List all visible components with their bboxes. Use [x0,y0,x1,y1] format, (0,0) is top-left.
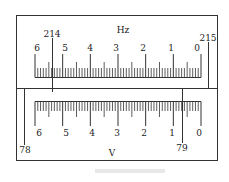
marker-label-78: 78 [19,146,30,155]
top-scale-ticks [35,54,201,78]
top-tick-label: 4 [87,44,93,53]
unit-label-hz: Hz [117,26,130,35]
top-tick-label: 5 [62,44,68,53]
top-tick-label: 3 [113,44,119,53]
bottom-tick-label: 1 [169,129,175,138]
bottom-tick-label: 2 [141,129,147,138]
bottom-tick-label: 3 [114,129,120,138]
bottom-tick-label: 0 [196,129,202,138]
unit-label-v: V [109,149,116,158]
faint-caption [95,169,165,173]
top-tick-label: 1 [168,44,174,53]
top-tick-label: 0 [194,44,200,53]
bottom-tick-label: 5 [63,129,69,138]
bottom-scale-ticks [35,102,201,127]
dual-scale-diagram: Hz V 214 215 78 79 6 5 4 3 2 1 0 6 5 4 3… [0,0,229,182]
marker-label-215: 215 [199,34,216,43]
bottom-tick-label: 4 [89,129,95,138]
top-tick-label: 6 [34,44,40,53]
top-tick-label: 2 [140,44,146,53]
bottom-tick-label: 6 [36,129,42,138]
marker-label-214: 214 [43,30,60,39]
marker-label-79: 79 [176,144,187,153]
